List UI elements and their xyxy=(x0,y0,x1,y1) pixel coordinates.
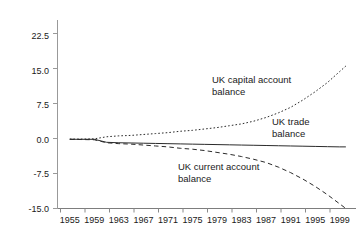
annotation-current-account: UK current account balance xyxy=(178,161,259,185)
x-tick-label: 1971 xyxy=(158,216,178,225)
y-tick-label: 15.0 xyxy=(0,66,49,75)
x-tick-label: 1999 xyxy=(330,216,350,225)
chart-container: 22.515.07.50.0-7.5-15.0 1955195919631967… xyxy=(0,0,356,241)
x-tick-label: 1987 xyxy=(256,216,276,225)
x-tick-label: 1955 xyxy=(60,216,80,225)
x-tick-label: 1979 xyxy=(207,216,227,225)
x-tick-label: 1983 xyxy=(232,216,252,225)
y-tick-label: -15.0 xyxy=(0,204,49,213)
x-tick-label: 1967 xyxy=(133,216,153,225)
y-tick-label: 0.0 xyxy=(0,135,49,144)
x-tick-label: 1963 xyxy=(109,216,129,225)
y-tick-label: 22.5 xyxy=(0,32,49,41)
annotation-capital-account: UK capital account balance xyxy=(212,74,291,98)
x-axis-ticks xyxy=(61,209,331,213)
x-tick-label: 1995 xyxy=(305,216,325,225)
x-tick-label: 1991 xyxy=(281,216,301,225)
x-tick-label: 1959 xyxy=(84,216,104,225)
annotation-trade-balance: UK trade balance xyxy=(272,116,310,140)
y-tick-label: -7.5 xyxy=(0,170,49,179)
x-tick-label: 1975 xyxy=(182,216,202,225)
y-axis-ticks xyxy=(53,34,58,209)
y-tick-label: 7.5 xyxy=(0,101,49,110)
